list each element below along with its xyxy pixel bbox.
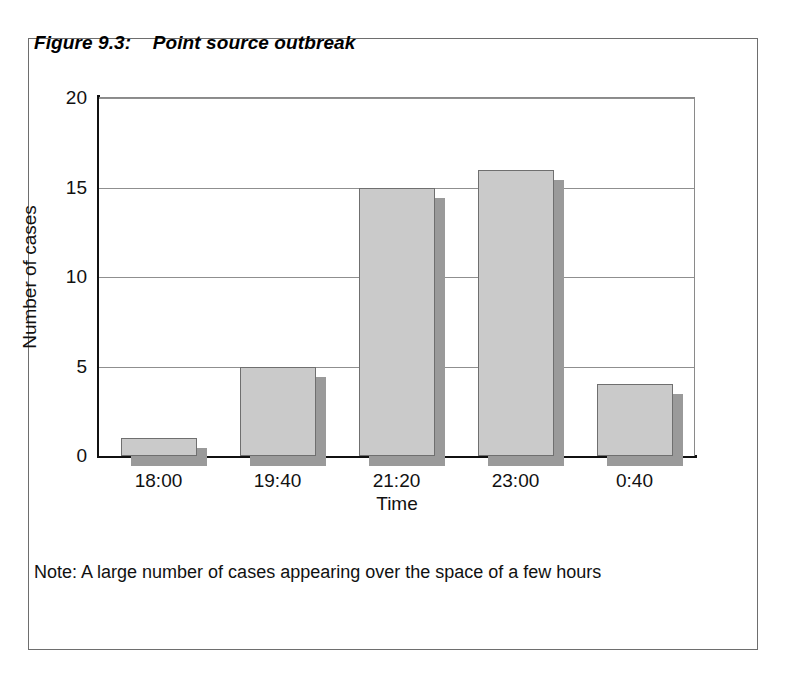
- gridline: [99, 98, 694, 99]
- plot-area: 05101520 18:0019:4021:2023:000:40: [99, 97, 695, 456]
- bar: [121, 438, 197, 456]
- y-tick-label: 10: [66, 266, 87, 288]
- bar-body: [121, 438, 197, 456]
- bar: [478, 170, 554, 456]
- y-tick-label: 15: [66, 177, 87, 199]
- figure-note: Note: A large number of cases appearing …: [34, 562, 601, 583]
- bar-body: [240, 367, 316, 457]
- x-tick-label: 19:40: [254, 470, 302, 492]
- y-tick-label: 20: [66, 87, 87, 109]
- figure-title: Figure 9.3: Point source outbreak: [34, 32, 355, 54]
- figure-title-text: Point source outbreak: [153, 32, 356, 53]
- bar: [597, 384, 673, 456]
- x-axis-title: Time: [99, 493, 695, 515]
- bar-body: [359, 188, 435, 457]
- x-tick-label: 18:00: [135, 470, 183, 492]
- y-tick-label: 5: [76, 356, 87, 378]
- x-tick-label: 21:20: [373, 470, 421, 492]
- bar: [240, 367, 316, 457]
- bar: [359, 188, 435, 457]
- chart-area: Number of cases 05101520 18:0019:4021:20…: [0, 60, 730, 540]
- bar-body: [478, 170, 554, 456]
- y-axis-title: Number of cases: [18, 97, 42, 456]
- y-tick-label: 0: [76, 445, 87, 467]
- x-tick-label: 23:00: [492, 470, 540, 492]
- bar-body: [597, 384, 673, 456]
- y-axis-title-text: Number of cases: [19, 205, 41, 349]
- x-tick-label: 0:40: [616, 470, 653, 492]
- figure-title-label: Figure 9.3:: [34, 32, 131, 53]
